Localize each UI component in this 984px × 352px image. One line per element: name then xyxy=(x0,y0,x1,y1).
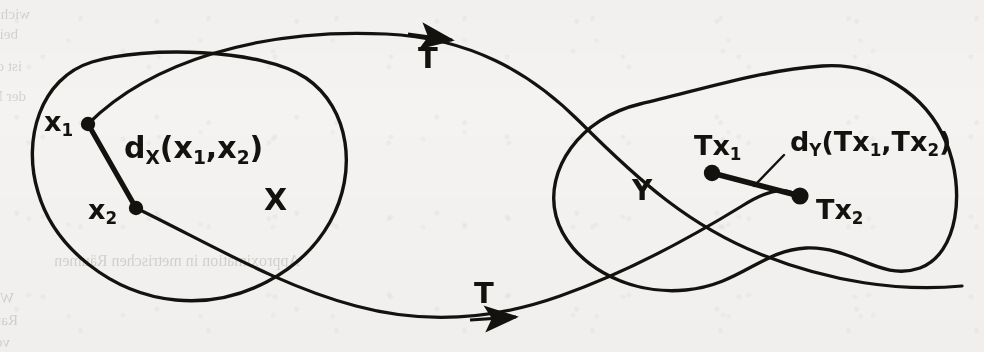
set-y-boundary xyxy=(554,66,957,291)
point-x2-label-main: x xyxy=(88,194,105,225)
distance-y-open-paren: ( xyxy=(821,126,833,157)
distance-y-space-sub: Y xyxy=(809,140,821,160)
distance-x-close-paren: ) xyxy=(250,130,264,165)
map-label-upper-t: T xyxy=(418,44,438,73)
set-y-label: Y xyxy=(632,177,652,205)
point-x2-label-sub: 2 xyxy=(105,208,117,228)
distance-x-space-sub: X xyxy=(145,147,159,168)
point-tx1-label: Tx1 xyxy=(694,132,742,159)
figure-canvas: wichtig, daß die Konvexität der Menge wi… xyxy=(0,0,984,352)
distance-y-close-paren: ) xyxy=(939,126,951,157)
point-x2-dot xyxy=(129,201,143,215)
point-tx2-label-sub: 2 xyxy=(852,208,864,228)
set-x-label: X xyxy=(264,185,287,215)
distance-y-arg2: Tx xyxy=(892,126,928,157)
point-x2-label: x2 xyxy=(88,196,117,223)
distance-y-arg2-sub: 2 xyxy=(927,140,939,160)
point-tx1-dot xyxy=(704,165,720,181)
point-tx2-label-main: Tx xyxy=(816,194,852,225)
distance-x-d: d xyxy=(124,130,145,165)
distance-label-leader-y xyxy=(754,155,784,186)
map-arc-lower xyxy=(136,191,800,318)
distance-x-arg1-sub: 1 xyxy=(193,147,206,168)
point-x1-label-main: x xyxy=(44,106,61,137)
distance-y-label: dY(Tx1,Tx2) xyxy=(790,128,951,155)
distance-y-comma: , xyxy=(881,126,891,157)
point-x1-label: x1 xyxy=(44,108,73,135)
distance-x-arg1: x xyxy=(174,130,193,165)
distance-x-arg2: x xyxy=(217,130,236,165)
distance-y-arg1-sub: 1 xyxy=(870,140,882,160)
distance-y-d: d xyxy=(790,126,809,157)
distance-x-arg2-sub: 2 xyxy=(237,147,250,168)
map-arrow-lower-head xyxy=(470,317,516,320)
point-tx2-label: Tx2 xyxy=(816,196,864,223)
distance-x-label: dX(x1,x2) xyxy=(124,133,263,163)
distance-y-arg1: Tx xyxy=(834,126,870,157)
distance-x-comma: , xyxy=(206,130,217,165)
point-x1-label-sub: 1 xyxy=(61,120,73,140)
point-x1-dot xyxy=(81,117,95,131)
set-x-boundary xyxy=(32,52,346,301)
point-tx2-dot xyxy=(791,187,808,204)
distance-x-open-paren: ( xyxy=(160,130,174,165)
point-tx1-label-sub: 1 xyxy=(730,144,742,164)
point-tx1-label-main: Tx xyxy=(694,130,730,161)
map-label-lower-t: T xyxy=(474,279,494,308)
